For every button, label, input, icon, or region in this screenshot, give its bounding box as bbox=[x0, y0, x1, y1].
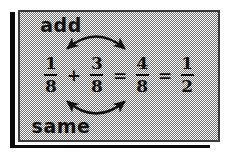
operator-equals-2: = bbox=[157, 65, 172, 85]
fraction-term-2: 3 8 bbox=[89, 55, 105, 95]
fraction-term-4: 1 2 bbox=[179, 55, 195, 95]
numerator: 3 bbox=[89, 55, 105, 73]
denominator: 8 bbox=[89, 77, 105, 95]
same-label: same bbox=[20, 117, 160, 136]
panel-dither-field: add 1 8 bbox=[20, 12, 218, 140]
diagram-canvas: add 1 8 bbox=[0, 0, 243, 158]
fraction-equation: 1 8 + 3 8 = 4 8 = 1 bbox=[20, 52, 218, 98]
fraction-term-3: 4 8 bbox=[134, 55, 150, 95]
numerator: 1 bbox=[179, 55, 195, 73]
bottom-arc-arrow bbox=[68, 102, 124, 114]
numerator: 1 bbox=[43, 55, 59, 73]
denominator: 8 bbox=[134, 77, 150, 95]
fraction-term-1: 1 8 bbox=[43, 55, 59, 95]
top-arc-arrow bbox=[68, 37, 124, 49]
denominator: 8 bbox=[43, 77, 59, 95]
numerator: 4 bbox=[134, 55, 150, 73]
panel-content: add 1 8 bbox=[20, 12, 218, 140]
add-label: add bbox=[20, 16, 160, 35]
denominator: 2 bbox=[179, 77, 195, 95]
operator-equals-1: = bbox=[112, 65, 127, 85]
operator-plus: + bbox=[66, 65, 82, 85]
